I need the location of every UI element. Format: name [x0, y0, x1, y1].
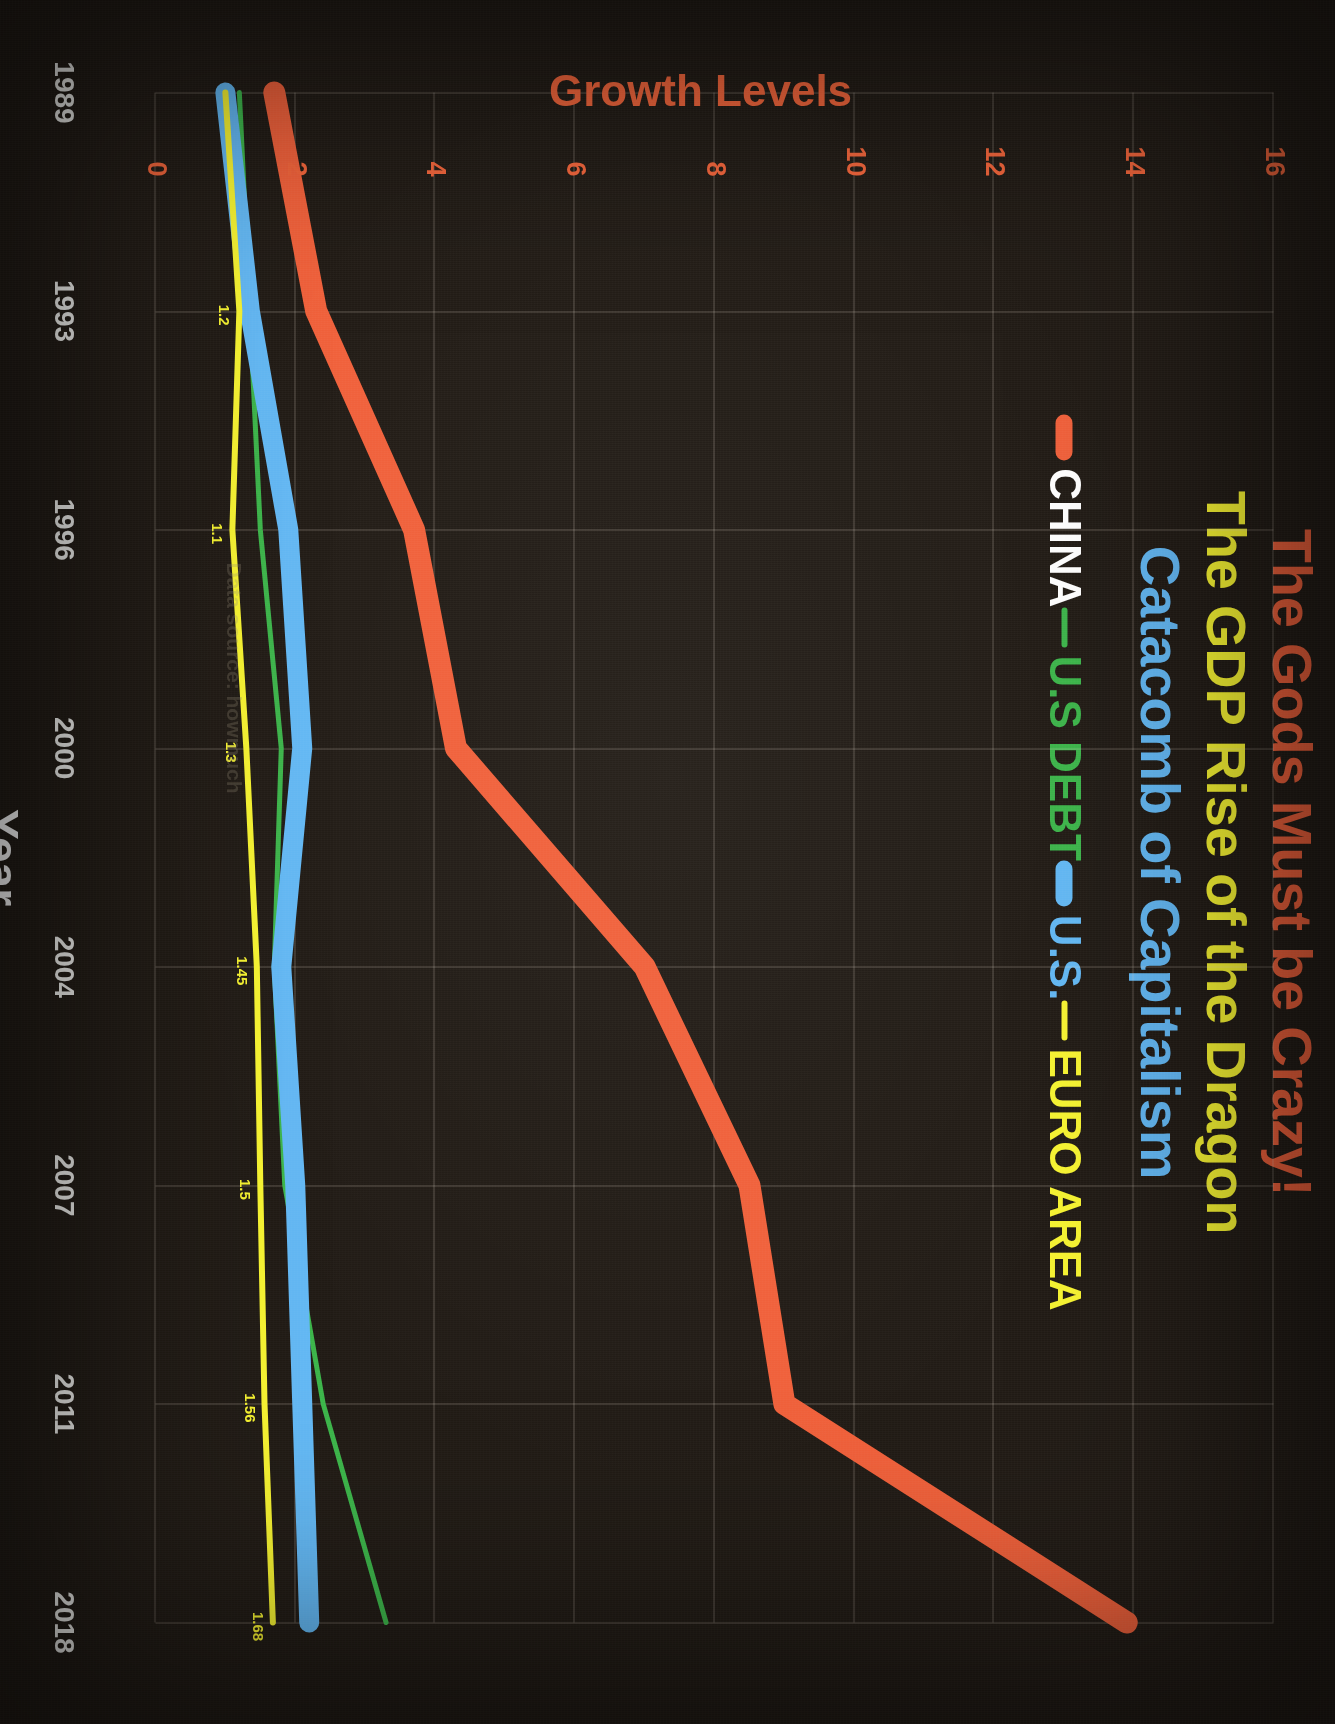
plot-area: 1.21.11.31.451.51.561.68 0246810121416 1…: [155, 92, 1273, 1622]
x-tick-label-2011: 2011: [49, 1333, 77, 1473]
x-tick-label-2000: 2000: [49, 678, 77, 818]
chart-stage: The Gods Must be Crazy! The GDP Rise of …: [0, 0, 1335, 1724]
x-tick-label-1996: 1996: [49, 459, 77, 599]
data-label-euro-2018: 1.68: [249, 1611, 266, 1640]
y-tick-label-10: 10: [841, 116, 868, 176]
y-tick-label-0: 0: [142, 116, 169, 176]
series-line-china: [274, 92, 1126, 1622]
y-tick-label-16: 16: [1260, 116, 1287, 176]
data-source-watermark: Data source: howmuch: [221, 562, 245, 793]
data-label-euro-2007: 1.5: [237, 1178, 254, 1199]
y-tick-label-8: 8: [701, 116, 728, 176]
x-tick-label-2007: 2007: [49, 1115, 77, 1255]
data-label-euro-2011: 1.56: [241, 1393, 258, 1422]
y-tick-label-12: 12: [981, 116, 1008, 176]
y-tick-label-14: 14: [1120, 116, 1147, 176]
y-axis-title: Growth Levels: [250, 65, 1150, 115]
x-tick-label-1989: 1989: [49, 22, 77, 162]
x-tick-label-2018: 2018: [49, 1552, 77, 1692]
data-label-euro-1993: 1.2: [216, 304, 233, 325]
x-tick-label-1993: 1993: [49, 241, 77, 381]
y-tick-label-2: 2: [282, 116, 309, 176]
x-axis-title: Year: [0, 92, 28, 1622]
x-tick-label-2004: 2004: [49, 896, 77, 1036]
data-label-euro-2004: 1.45: [233, 956, 250, 985]
photographed-slide: The Gods Must be Crazy! The GDP Rise of …: [0, 0, 1335, 1724]
y-tick-label-6: 6: [561, 116, 588, 176]
data-label-euro-1996: 1.1: [209, 523, 226, 544]
series-lines: 1.21.11.31.451.51.561.68: [155, 92, 1273, 1622]
y-tick-label-4: 4: [422, 116, 449, 176]
